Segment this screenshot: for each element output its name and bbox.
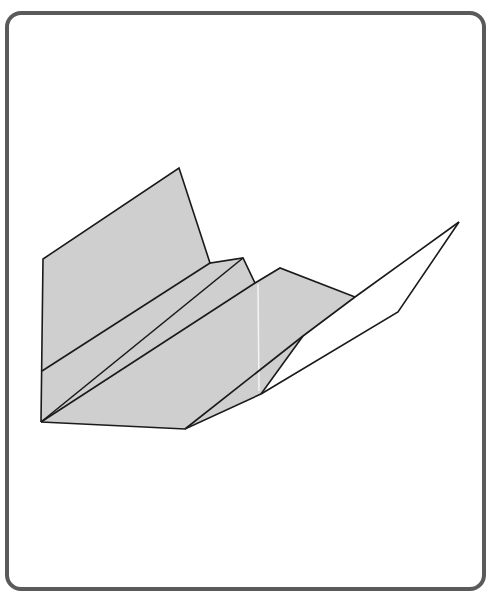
highlight-crease [258, 284, 259, 391]
left-wing-panel [41, 168, 355, 429]
paper-airplane-illustration [0, 0, 489, 601]
